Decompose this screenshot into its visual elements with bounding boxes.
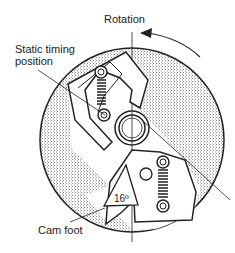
static-timing-label-line1: Static timing — [15, 43, 75, 55]
static-timing-label-line2: position — [15, 55, 53, 67]
angle-label: 16º — [114, 193, 129, 205]
rotation-label: Rotation — [104, 13, 145, 25]
advance-mechanism-diagram — [0, 0, 235, 253]
pivot-pin — [140, 168, 152, 180]
cam-foot-label: Cam foot — [38, 224, 83, 236]
